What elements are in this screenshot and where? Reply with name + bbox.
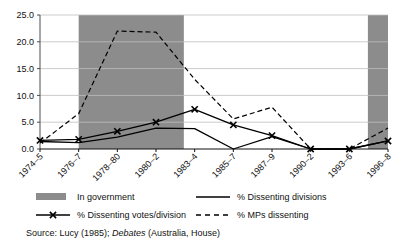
source-note: Source: Lucy (1985); Debates (Australia,…: [26, 228, 220, 238]
y-tick-label: 15.0: [16, 64, 34, 74]
chart-container: 0.05.010.015.020.025.0 1974–51976–71978–…: [0, 0, 408, 245]
source-citation: Lucy (1985);: [60, 228, 113, 238]
y-tick-label: 5.0: [21, 117, 34, 127]
source-text: Source: Lucy (1985); Debates (Australia,…: [26, 228, 220, 238]
legend-label: % Dissenting votes/division: [77, 210, 186, 220]
source-suffix: (Australia, House): [146, 228, 221, 238]
dissent-line-chart: 0.05.010.015.020.025.0 1974–51976–71978–…: [0, 0, 408, 245]
legend-swatch-band: [36, 193, 66, 200]
source-prefix: Source:: [26, 228, 60, 238]
y-tick-label: 0.0: [21, 144, 34, 154]
legend-label: In government: [77, 192, 135, 202]
legend-label: % Dissenting divisions: [237, 192, 327, 202]
legend-label: % MPs dissenting: [237, 210, 309, 220]
y-tick-label: 20.0: [16, 37, 34, 47]
source-italic-title: Debates: [112, 228, 146, 238]
y-tick-label: 25.0: [16, 10, 34, 20]
y-tick-label: 10.0: [16, 91, 34, 101]
